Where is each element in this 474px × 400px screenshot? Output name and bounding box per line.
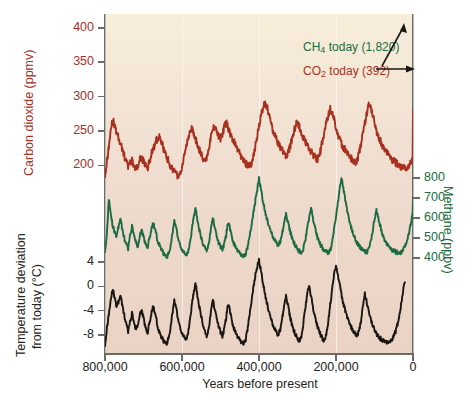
axis-tick — [98, 334, 105, 336]
axis-tick — [413, 237, 420, 239]
axis-tick — [98, 130, 105, 132]
axis-tick — [413, 197, 420, 199]
y-tick-label-temperature-deviation: 0 — [64, 278, 94, 292]
axis-tick — [98, 310, 105, 312]
axis-tick — [98, 61, 105, 63]
axis-tick — [413, 217, 420, 219]
x-tick-label: 0 — [368, 360, 458, 374]
y-tick-label-carbon-dioxide: 400 — [50, 20, 94, 34]
y-tick-label-carbon-dioxide: 350 — [50, 54, 94, 68]
temp-axis-title-line2: from today (°C) — [30, 264, 44, 349]
y-tick-label-carbon-dioxide: 300 — [50, 89, 94, 103]
axis-tick — [98, 261, 105, 263]
co2-axis-title: Carbon dioxide (ppmv) — [22, 50, 36, 176]
ch4-axis-title: Methane (ppbv) — [441, 186, 455, 274]
axis-tick — [98, 27, 105, 29]
axis-tick — [98, 286, 105, 288]
axis-tick — [98, 165, 105, 167]
y-tick-label-temperature-deviation: -4 — [64, 303, 94, 317]
figure-root: 20025030035040040050060070080040-4-8800,… — [0, 0, 474, 400]
co2-anno-prefix: CO — [303, 64, 321, 78]
temp-axis-title-line1: Temperature deviation — [14, 233, 28, 357]
y-tick-label-carbon-dioxide: 250 — [50, 123, 94, 137]
y-tick-label-temperature-deviation: 4 — [64, 254, 94, 268]
y-tick-label-temperature-deviation: -8 — [64, 327, 94, 341]
axis-tick — [413, 257, 420, 259]
series-line-temperature-deviation — [105, 259, 405, 347]
series-line-carbon-dioxide — [105, 102, 413, 179]
today-value-arrows — [370, 20, 430, 90]
y-tick-label-carbon-dioxide: 200 — [50, 157, 94, 171]
x-axis-title: Years before present — [165, 377, 355, 391]
ch4-anno-prefix: CH — [303, 40, 320, 54]
series-line-methane — [105, 177, 413, 258]
axis-tick — [98, 96, 105, 98]
y-tick-label-methane: 800 — [424, 170, 468, 184]
axis-tick — [413, 177, 420, 179]
